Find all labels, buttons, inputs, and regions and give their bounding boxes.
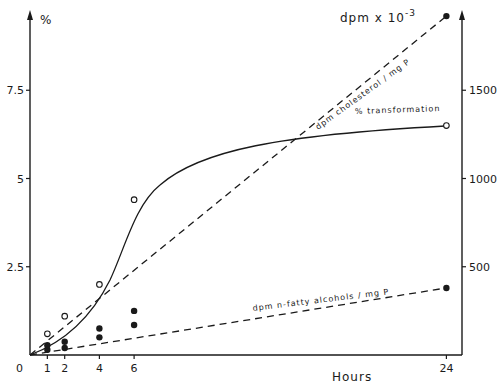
series-layer — [30, 13, 450, 355]
open-circle-marker — [62, 313, 68, 319]
origin-label: 0 — [16, 362, 23, 375]
chart: 1246242.557.550010001500 % dpm x 10-3 Ho… — [0, 0, 504, 388]
filled-circle-marker — [443, 285, 449, 291]
dashed-fit-line — [30, 16, 446, 355]
filled-circle-marker — [131, 308, 137, 314]
annotation-transformation: % transformation — [355, 104, 441, 116]
annotation-cholesterol: dpm cholesterol / mg P — [314, 57, 412, 132]
transformation-curve — [30, 126, 445, 355]
left-axis-arrow-icon — [27, 10, 33, 20]
x-tick-label: 2 — [61, 362, 68, 375]
filled-circle-marker — [96, 334, 102, 340]
open-circle-marker — [45, 331, 51, 337]
filled-circle-marker — [96, 325, 102, 331]
right-axis-unit: dpm x 10-3 — [340, 8, 416, 25]
open-circle-marker — [131, 197, 137, 203]
x-axis-title: Hours — [332, 370, 372, 384]
annotation-fatty-alcohols: dpm n-fatty alcohols / mg P — [252, 287, 390, 313]
x-tick-label: 24 — [439, 362, 453, 375]
right-axis-arrow-icon — [459, 10, 465, 20]
filled-circle-marker — [131, 322, 137, 328]
dashed-fit-line — [30, 288, 446, 355]
filled-circle-marker — [61, 339, 67, 345]
filled-circle-marker — [44, 342, 50, 348]
x-tick-label: 1 — [44, 362, 51, 375]
left-tick-label: 7.5 — [7, 84, 25, 97]
open-circle-marker — [444, 123, 450, 129]
ticks — [26, 90, 466, 359]
right-tick-label: 500 — [469, 261, 490, 274]
left-axis-unit: % — [40, 13, 52, 27]
right-tick-label: 1000 — [469, 173, 497, 186]
filled-circle-marker — [61, 345, 67, 351]
left-tick-label: 5 — [17, 173, 24, 186]
filled-circle-marker — [443, 13, 449, 19]
open-circle-marker — [97, 282, 103, 288]
series-0 — [30, 123, 449, 355]
right-tick-label: 1500 — [469, 84, 497, 97]
x-tick-label: 6 — [131, 362, 138, 375]
series-1 — [30, 13, 450, 355]
x-tick-label: 4 — [96, 362, 103, 375]
left-tick-label: 2.5 — [7, 261, 25, 274]
